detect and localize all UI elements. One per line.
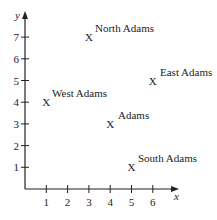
y-tick-label: 6: [14, 53, 20, 65]
point-west-adams: X West Adams: [42, 87, 107, 108]
x-tick-label: 1: [44, 196, 50, 208]
x-marker-icon: X: [85, 31, 93, 43]
y-tick-label: 7: [14, 31, 20, 43]
point-label: Adams: [118, 109, 149, 121]
y-tick-label: 5: [14, 75, 20, 87]
x-tick-labels: 1 2 3 4 5 6: [44, 196, 157, 208]
y-axis-arrow-icon: [22, 11, 28, 19]
x-marker-icon: X: [106, 118, 114, 130]
x-marker-icon: X: [128, 161, 136, 173]
x-tick-label: 6: [150, 196, 156, 208]
point-south-adams: X South Adams: [128, 152, 197, 173]
x-marker-icon: X: [42, 96, 50, 108]
y-tick-label: 2: [14, 140, 20, 152]
y-axis-label: y: [14, 9, 20, 21]
point-label: East Adams: [160, 66, 212, 78]
y-tick-label: 4: [14, 96, 20, 108]
point-north-adams: X North Adams: [85, 22, 154, 43]
x-tick-label: 5: [129, 196, 135, 208]
point-label: West Adams: [52, 87, 107, 99]
data-points: X West Adams X North Adams X Adams X Eas…: [42, 22, 212, 173]
point-label: North Adams: [95, 22, 154, 34]
x-marker-icon: X: [149, 75, 157, 87]
x-tick-label: 3: [86, 196, 92, 208]
y-tick-label: 3: [14, 118, 20, 130]
x-tick-label: 4: [107, 196, 113, 208]
x-tick-label: 2: [65, 196, 71, 208]
y-tick-labels: 1 2 3 4 5 6 7: [14, 31, 20, 173]
y-tick-label: 1: [14, 161, 20, 173]
scatter-plot: y x 1 2 3 4 5 6 7 1 2 3 4 5 6: [0, 0, 217, 220]
point-label: South Adams: [138, 152, 197, 164]
point-adams: X Adams: [106, 109, 149, 130]
x-axis-label: x: [173, 190, 179, 202]
point-east-adams: X East Adams: [149, 66, 212, 87]
